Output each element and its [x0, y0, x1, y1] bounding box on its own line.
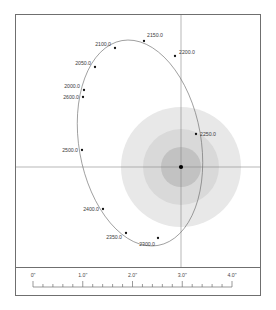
- scale-tick-label: 4.0": [227, 272, 236, 278]
- epoch-label: 2600.0: [63, 94, 79, 100]
- epoch-label: 2350.0: [106, 234, 122, 240]
- scale-ticks: [33, 281, 232, 287]
- epoch-label: 2000.0: [64, 83, 80, 89]
- scale-tick-labels: 0"1.0"2.0"3.0"4.0": [31, 272, 237, 278]
- epoch-label: 2300.0: [139, 241, 155, 247]
- scale-tick-label: 0": [31, 272, 36, 278]
- scale-tick-label: 3.0": [178, 272, 187, 278]
- primary-star-layer: [179, 165, 183, 169]
- figure-root: 2000.02050.02100.02150.02200.02250.02300…: [0, 0, 276, 310]
- epoch-marker: [157, 237, 159, 239]
- scale-bar-panel: 0"1.0"2.0"3.0"4.0": [16, 268, 260, 295]
- scale-bar-svg: 0"1.0"2.0"3.0"4.0": [16, 268, 260, 295]
- epoch-label: 2200.0: [179, 49, 195, 55]
- epoch-label: 2150.0: [147, 32, 163, 38]
- epoch-marker: [81, 149, 83, 151]
- epoch-marker: [125, 232, 127, 234]
- epoch-marker: [143, 40, 145, 42]
- epoch-marker: [114, 47, 116, 49]
- epoch-label: 2400.0: [83, 206, 99, 212]
- epoch-marker: [94, 66, 96, 68]
- epoch-label: 2050.0: [75, 60, 91, 66]
- scale-tick-label: 1.0": [78, 272, 87, 278]
- primary-star-marker: [179, 165, 183, 169]
- epoch-label: 2500.0: [62, 147, 78, 153]
- epoch-label: 2250.0: [200, 131, 216, 137]
- epoch-marker: [195, 133, 197, 135]
- epoch-label: 2100.0: [95, 41, 111, 47]
- scale-tick-label: 2.0": [128, 272, 137, 278]
- orbit-plot-svg: 2000.02050.02100.02150.02200.02250.02300…: [16, 15, 260, 267]
- epoch-marker: [83, 89, 85, 91]
- epoch-marker: [102, 208, 104, 210]
- epoch-marker: [82, 96, 84, 98]
- orbit-plot-panel: 2000.02050.02100.02150.02200.02250.02300…: [16, 15, 260, 267]
- epoch-marker: [174, 55, 176, 57]
